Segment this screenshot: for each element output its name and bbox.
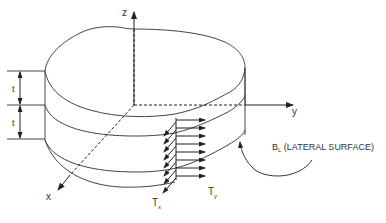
top-layer-edge [45, 68, 245, 117]
top-surface-outline [45, 27, 245, 105]
thickness-label-1: t [12, 84, 15, 94]
ty-label: Ty [208, 186, 217, 199]
y-axis-label: y [292, 106, 297, 117]
ty-traction-arrows [176, 120, 205, 176]
thickness-label-2: t [12, 118, 15, 128]
layer-arc-1 [45, 95, 245, 136]
x-axis-label: x [46, 191, 51, 202]
z-axis-label: z [122, 7, 127, 18]
x-axis-hidden [70, 105, 134, 175]
bottom-edge-arc [45, 140, 175, 187]
laminate-diagram: z y x t t Tx Ty [0, 0, 386, 223]
lateral-surface-label: BL (LATERAL SURFACE) [272, 142, 374, 153]
x-axis [58, 175, 70, 190]
